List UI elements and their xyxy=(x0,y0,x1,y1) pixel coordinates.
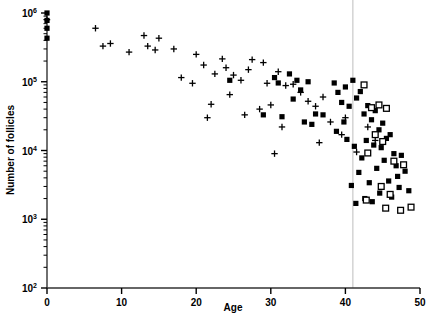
data-point-plus xyxy=(145,43,151,49)
data-point-filled-square xyxy=(350,78,355,83)
data-point-open-square xyxy=(378,184,384,190)
data-point-plus xyxy=(338,131,344,137)
data-point-filled-square xyxy=(339,100,344,105)
x-tick-label: 10 xyxy=(116,297,128,308)
data-point-filled-square xyxy=(302,119,307,124)
data-point-filled-square xyxy=(44,26,49,31)
data-point-plus xyxy=(178,74,184,80)
data-point-filled-square xyxy=(44,36,49,41)
y-tick-label: 103 xyxy=(22,213,37,225)
data-point-open-square xyxy=(391,158,397,164)
x-axis-title: Age xyxy=(224,302,243,313)
data-point-filled-square xyxy=(358,89,363,94)
data-point-plus xyxy=(238,77,244,83)
data-point-plus xyxy=(268,102,274,108)
data-point-open-square xyxy=(383,205,389,211)
data-point-plus xyxy=(189,80,195,86)
data-point-filled-square xyxy=(341,119,346,124)
data-point-plus xyxy=(212,71,218,77)
data-point-plus xyxy=(193,51,199,57)
data-point-filled-square xyxy=(279,114,284,119)
y-tick-label: 105 xyxy=(22,76,37,88)
data-point-filled-square xyxy=(261,112,266,117)
data-point-plus xyxy=(320,94,326,100)
data-point-filled-square xyxy=(364,138,369,143)
data-point-plus xyxy=(204,114,210,120)
data-point-plus xyxy=(219,56,225,62)
data-point-filled-square xyxy=(386,178,391,183)
data-point-plus xyxy=(305,98,311,104)
axis-ticks-layer xyxy=(41,13,420,294)
data-point-filled-square xyxy=(287,71,292,76)
data-point-plus xyxy=(283,82,289,88)
data-point-plus xyxy=(365,124,371,130)
data-point-filled-square xyxy=(391,151,396,156)
y-tick-label: 106 xyxy=(22,7,37,19)
data-point-filled-square xyxy=(344,137,349,142)
data-point-filled-square xyxy=(370,199,375,204)
data-point-filled-square xyxy=(397,185,402,190)
data-point-open-square xyxy=(376,102,382,108)
data-point-plus xyxy=(223,65,229,71)
data-point-plus xyxy=(230,72,236,78)
data-point-open-square xyxy=(398,207,404,213)
data-point-filled-square xyxy=(276,80,281,85)
data-point-plus xyxy=(316,139,322,145)
data-point-open-square xyxy=(401,162,407,168)
x-tick-label: 20 xyxy=(191,297,203,308)
data-point-filled-square xyxy=(399,153,404,158)
data-point-plus xyxy=(107,40,113,46)
data-point-filled-square xyxy=(294,78,299,83)
data-point-filled-square xyxy=(402,169,407,174)
data-point-filled-square xyxy=(44,18,49,23)
data-point-filled-square xyxy=(343,84,348,89)
data-point-open-square xyxy=(369,105,375,111)
data-point-plus xyxy=(171,46,177,52)
data-point-plus xyxy=(227,91,233,97)
data-points-layer xyxy=(44,10,414,213)
data-point-plus xyxy=(141,32,147,38)
x-tick-label: 30 xyxy=(265,297,277,308)
data-point-filled-square xyxy=(395,174,400,179)
data-point-filled-square xyxy=(347,104,352,109)
y-tick-label: 104 xyxy=(22,145,37,157)
data-point-filled-square xyxy=(44,10,49,15)
data-point-plus xyxy=(264,80,270,86)
data-point-filled-square xyxy=(361,111,366,116)
data-point-filled-square xyxy=(227,78,232,83)
x-tick-label: 50 xyxy=(414,297,426,308)
x-tick-label: 40 xyxy=(340,297,352,308)
data-point-filled-square xyxy=(353,201,358,206)
data-point-plus xyxy=(156,35,162,41)
data-point-filled-square xyxy=(356,170,361,175)
data-point-filled-square xyxy=(359,155,364,160)
data-point-filled-square xyxy=(334,129,339,134)
data-point-filled-square xyxy=(298,87,303,92)
data-point-filled-square xyxy=(349,183,354,188)
data-point-filled-square xyxy=(380,121,385,126)
data-point-filled-square xyxy=(367,180,372,185)
data-point-plus xyxy=(100,43,106,49)
data-point-filled-square xyxy=(379,145,384,150)
data-point-filled-square xyxy=(306,79,311,84)
y-tick-labels-layer: 102103104105106 xyxy=(22,7,37,294)
data-point-open-square xyxy=(387,191,393,197)
data-point-filled-square xyxy=(406,188,411,193)
axis-lines-layer xyxy=(47,13,420,288)
data-point-open-square xyxy=(380,139,386,145)
y-axis-title: Number of follicles xyxy=(5,105,16,195)
data-point-plus xyxy=(312,103,318,109)
data-point-filled-square xyxy=(320,112,325,117)
data-point-plus xyxy=(279,124,285,130)
data-point-plus xyxy=(92,25,98,31)
data-point-plus xyxy=(152,47,158,53)
data-point-plus xyxy=(353,149,359,155)
data-point-filled-square xyxy=(335,90,340,95)
data-point-open-square xyxy=(372,132,378,138)
x-tick-label: 0 xyxy=(44,297,50,308)
data-point-filled-square xyxy=(272,75,277,80)
chart-canvas: 102103104105106 01020304050 Age Number o… xyxy=(0,0,437,322)
data-point-filled-square xyxy=(374,166,379,171)
data-point-filled-square xyxy=(352,144,357,149)
data-point-plus xyxy=(256,106,262,112)
